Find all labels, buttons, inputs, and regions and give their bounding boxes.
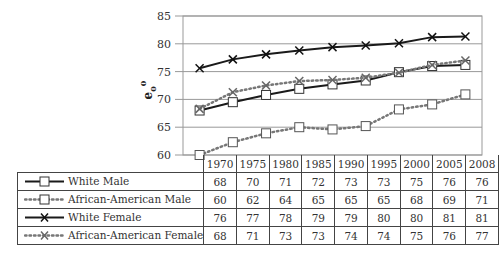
legend-entry: White Female [18,209,204,227]
table-cell: 78 [269,209,302,227]
legend-x-solid-icon [24,211,65,224]
y-tick-label: 85 [157,10,171,23]
year-header: 2005 [433,155,466,173]
y-tick-label: 80 [157,38,171,51]
data-table: 197019751980198519901995200020052008Whit… [17,155,499,245]
year-header: 1990 [335,155,368,173]
table-row: African-American Male606264656565686971 [18,191,499,209]
table-cell: 80 [400,209,433,227]
series-label: African-American Female [68,229,203,241]
year-header: 1995 [367,155,400,173]
table-cell: 76 [433,173,466,191]
square-marker [394,105,403,114]
legend-square-dotted-icon [24,193,65,206]
square-marker [361,122,370,131]
table-cell: 76 [466,173,499,191]
square-marker [262,129,271,138]
year-header: 2000 [400,155,433,173]
y-tick-label: 65 [157,121,171,134]
table-cell: 64 [269,191,302,209]
legend-square-solid-icon [24,175,65,188]
legend-entry: African-American Male [18,191,204,209]
table-cell: 74 [335,227,368,245]
line-chart: 606570758085e00 [0,0,499,160]
table-cell: 65 [335,191,368,209]
table-cell: 77 [466,227,499,245]
table-cell: 73 [269,227,302,245]
table-cell: 69 [433,191,466,209]
table-cell: 73 [302,227,335,245]
table-cell: 77 [236,209,269,227]
legend-entry: African-American Female [18,227,204,245]
table-cell: 65 [302,191,335,209]
table-cell: 75 [400,173,433,191]
table-cell: 80 [367,209,400,227]
legend-entry: White Male [18,173,204,191]
table-cell: 79 [302,209,335,227]
y-tick-label: 75 [157,66,171,79]
y-tick-label: 70 [157,93,171,106]
series-label: White Male [68,175,129,187]
table-corner [18,155,204,173]
square-marker [461,90,470,99]
table-cell: 71 [466,191,499,209]
table-cell: 68 [204,173,237,191]
table-cell: 76 [433,227,466,245]
table-cell: 79 [335,209,368,227]
table-cell: 60 [204,191,237,209]
legend-x-dotted-icon [24,229,65,242]
table-cell: 73 [335,173,368,191]
table-cell: 72 [302,173,335,191]
table-row: African-American Female68717373747475767… [18,227,499,245]
y-axis-label: e00 [138,80,158,99]
table-cell: 68 [204,227,237,245]
table-cell: 75 [400,227,433,245]
table-cell: 73 [367,173,400,191]
year-header: 2008 [466,155,499,173]
table-cell: 74 [367,227,400,245]
table-cell: 81 [466,209,499,227]
table-cell: 71 [236,227,269,245]
table-cell: 71 [269,173,302,191]
year-header: 1975 [236,155,269,173]
square-marker [295,84,304,93]
table-cell: 81 [433,209,466,227]
square-marker [295,123,304,132]
series-label: White Female [68,211,141,223]
table-row: White Male687071727373757676 [18,173,499,191]
table-cell: 65 [367,191,400,209]
year-header: 1985 [302,155,335,173]
table-cell: 62 [236,191,269,209]
table-cell: 68 [400,191,433,209]
square-marker [461,60,470,69]
square-marker [228,138,237,147]
year-header: 1970 [204,155,237,173]
year-header: 1980 [269,155,302,173]
square-marker [428,100,437,109]
square-marker [228,98,237,107]
square-marker [262,90,271,99]
table-cell: 70 [236,173,269,191]
table-cell: 76 [204,209,237,227]
table-row: White Female767778797980808181 [18,209,499,227]
square-marker [328,125,337,134]
series-label: African-American Male [68,193,191,205]
